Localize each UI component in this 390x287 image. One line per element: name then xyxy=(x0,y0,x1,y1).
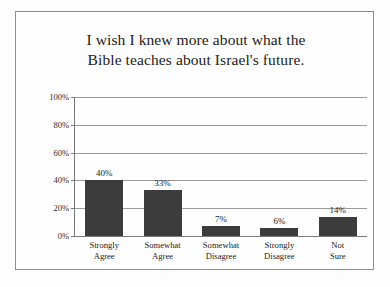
bar[interactable] xyxy=(260,228,298,236)
x-axis-category-label: StronglyAgree xyxy=(89,240,119,262)
x-axis-category-label-line: Strongly xyxy=(264,240,295,251)
bar-value-label: 14% xyxy=(330,205,347,215)
chart-title-line-1: I wish I knew more about what the xyxy=(46,30,346,50)
y-axis-tick-label: 80% xyxy=(53,120,69,130)
y-axis-tick-label: 40% xyxy=(53,175,69,185)
x-axis-category-label-line: Disagree xyxy=(264,251,295,262)
bar-value-label: 6% xyxy=(273,216,285,226)
figure-frame: I wish I knew more about what the Bible … xyxy=(15,11,374,270)
chart-page: I wish I knew more about what the Bible … xyxy=(0,0,390,287)
y-axis-tick-label: 60% xyxy=(53,148,69,158)
y-axis-tick-mark xyxy=(71,236,75,237)
x-axis-category-label: NotSure xyxy=(330,240,346,262)
x-axis-category-label-line: Strongly xyxy=(89,240,119,251)
x-axis-category-label: SomewhatDisagree xyxy=(203,240,239,262)
bar-value-label: 7% xyxy=(215,214,227,224)
chart-title-line-2: Bible teaches about Israel's future. xyxy=(46,50,346,70)
x-axis-category-label-line: Sure xyxy=(330,251,346,262)
bar-group: 6%StronglyDisagree xyxy=(250,97,308,236)
bar-group: 14%NotSure xyxy=(309,97,367,236)
bar[interactable] xyxy=(85,180,123,236)
bar-group: 33%SomewhatAgree xyxy=(133,97,191,236)
x-axis-category-label-line: Somewhat xyxy=(203,240,239,251)
x-axis-category-label: StronglyDisagree xyxy=(264,240,295,262)
bar-value-label: 33% xyxy=(154,178,171,188)
bar[interactable] xyxy=(319,217,357,236)
y-axis-tick-label: 100% xyxy=(49,92,69,102)
bar-value-label: 40% xyxy=(96,168,113,178)
x-axis-category-label-line: Agree xyxy=(144,251,180,262)
x-axis-category-label-line: Disagree xyxy=(203,251,239,262)
plot-area: 0%20%40%60%80%100%40%StronglyAgree33%Som… xyxy=(74,97,367,237)
bar[interactable] xyxy=(144,190,182,236)
x-axis-category-label: SomewhatAgree xyxy=(144,240,180,262)
bar-group: 7%SomewhatDisagree xyxy=(192,97,250,236)
y-axis-tick-label: 0% xyxy=(58,231,69,241)
y-axis-tick-label: 20% xyxy=(53,203,69,213)
chart-title: I wish I knew more about what the Bible … xyxy=(46,30,346,70)
bar-group: 40%StronglyAgree xyxy=(75,97,133,236)
bar[interactable] xyxy=(202,226,240,236)
x-axis-category-label-line: Somewhat xyxy=(144,240,180,251)
x-axis-category-label-line: Agree xyxy=(89,251,119,262)
x-axis-category-label-line: Not xyxy=(330,240,346,251)
